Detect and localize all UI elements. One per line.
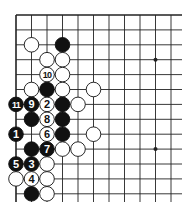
white-stone-4: 4 <box>24 172 39 187</box>
move-number-label: 9 <box>28 98 34 110</box>
white-stone <box>24 38 39 53</box>
white-stone-8: 8 <box>40 112 55 127</box>
black-stone <box>55 38 70 53</box>
black-stone <box>40 82 55 97</box>
move-number-label: 10 <box>43 70 52 80</box>
white-stone <box>71 142 86 157</box>
move-number-label: 11 <box>12 100 21 110</box>
white-stone <box>55 142 70 157</box>
black-stone-9: 9 <box>24 97 39 112</box>
white-stone-6: 6 <box>40 127 55 142</box>
move-number-label: 2 <box>44 98 50 110</box>
white-stone-10: 10 <box>40 67 55 82</box>
move-number-label: 4 <box>28 173 35 185</box>
black-stone <box>55 97 70 112</box>
move-number-label: 3 <box>28 158 34 170</box>
white-stone <box>86 127 101 142</box>
white-stone-2: 2 <box>40 97 55 112</box>
black-stone <box>55 112 70 127</box>
black-stone-3: 3 <box>24 157 39 172</box>
move-number-label: 1 <box>13 128 19 140</box>
white-stone <box>9 172 24 187</box>
black-stone-5: 5 <box>9 157 24 172</box>
go-board: 1011928167534 <box>0 0 193 212</box>
white-stone <box>55 82 70 97</box>
white-stone <box>40 52 55 67</box>
white-stone <box>40 172 55 187</box>
white-stone <box>24 82 39 97</box>
star-point-icon <box>154 147 158 151</box>
star-point-icon <box>154 58 158 62</box>
white-stone <box>40 187 55 202</box>
move-number-label: 5 <box>13 158 19 170</box>
white-stone <box>86 82 101 97</box>
black-stone <box>24 187 39 202</box>
white-stone <box>40 157 55 172</box>
move-number-label: 6 <box>44 128 50 140</box>
black-stone-7: 7 <box>40 142 55 157</box>
move-number-label: 8 <box>44 113 50 125</box>
white-stone <box>55 52 70 67</box>
black-stone <box>55 127 70 142</box>
black-stone-11: 11 <box>9 97 24 112</box>
black-stone <box>24 142 39 157</box>
move-number-label: 7 <box>44 143 50 155</box>
white-stone <box>71 97 86 112</box>
black-stone-1: 1 <box>9 127 24 142</box>
white-stone <box>55 67 70 82</box>
black-stone <box>24 112 39 127</box>
